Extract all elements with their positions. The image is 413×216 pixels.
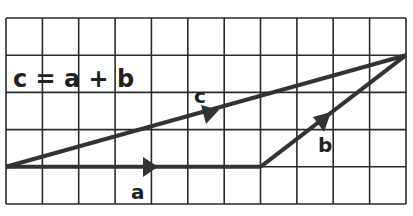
vector-label-c: c: [194, 84, 206, 108]
arrowhead-a-icon: [143, 157, 158, 177]
vector-label-a: a: [131, 180, 145, 204]
vector-label-b: b: [318, 133, 332, 157]
vector-addition-diagram: c = a + b c b a: [0, 0, 413, 216]
equation-label: c = a + b: [13, 65, 134, 93]
vector-a: [6, 157, 261, 177]
